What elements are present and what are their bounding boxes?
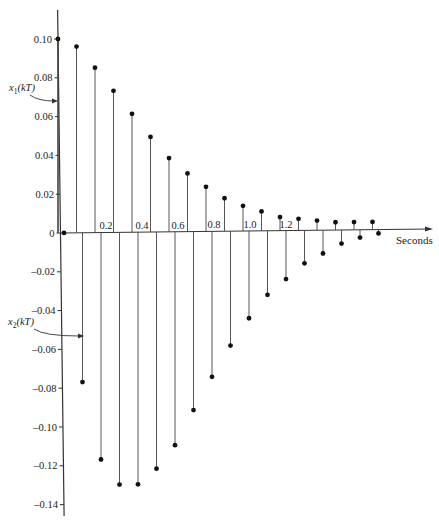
x1-point bbox=[56, 37, 61, 42]
x1-point bbox=[333, 220, 338, 225]
x-tick-label: 1.0 bbox=[243, 219, 256, 230]
x1-point bbox=[241, 203, 246, 208]
x2-point bbox=[321, 251, 326, 256]
stem-chart: 0.100.080.060.040.020–0.02–0.04–0.06–0.0… bbox=[0, 0, 439, 520]
x1-point bbox=[204, 184, 209, 189]
x1-point bbox=[130, 111, 135, 116]
x-tick-label: 0.8 bbox=[207, 219, 220, 230]
series-x2-stems bbox=[62, 230, 381, 487]
x1-label: x1(kT) bbox=[8, 82, 35, 96]
x2-point bbox=[228, 343, 233, 348]
x2-point bbox=[358, 235, 363, 240]
y-tick-label: –0.14 bbox=[33, 499, 58, 510]
x2-point bbox=[136, 482, 141, 487]
y-tick-label: –0.12 bbox=[33, 460, 58, 471]
x-tick-label: 1.2 bbox=[279, 219, 292, 230]
x1-point bbox=[148, 135, 153, 140]
x-tick-label: 0.2 bbox=[99, 220, 112, 231]
y-axis: 0.100.080.060.040.020–0.02–0.04–0.06–0.0… bbox=[30, 10, 64, 516]
x-axis-arrow-icon bbox=[425, 226, 433, 231]
x2-point bbox=[62, 231, 67, 236]
y-tick-label: 0.04 bbox=[35, 150, 54, 161]
x2-point bbox=[99, 457, 104, 462]
x1-point bbox=[315, 218, 320, 223]
x1-point bbox=[296, 216, 301, 221]
x1-point bbox=[259, 209, 264, 214]
x2-point bbox=[265, 292, 270, 297]
y-tick-label: –0.02 bbox=[30, 266, 55, 277]
x1-pointer-arrow bbox=[30, 95, 54, 101]
x2-point bbox=[191, 408, 196, 413]
x1-point bbox=[167, 156, 172, 161]
x-tick-label: 0.4 bbox=[135, 220, 149, 231]
chart-canvas: 0.100.080.060.040.020–0.02–0.04–0.06–0.0… bbox=[0, 0, 439, 520]
x2-arrowhead-icon bbox=[78, 334, 84, 339]
x1-point bbox=[74, 44, 79, 49]
y-tick-label: 0.10 bbox=[34, 34, 52, 45]
x1-point bbox=[222, 196, 227, 201]
y-tick-label: 0.06 bbox=[35, 111, 53, 122]
y-tick-label: 0 bbox=[49, 228, 54, 239]
y-tick-label: –0.08 bbox=[32, 383, 57, 394]
x2-point bbox=[339, 241, 344, 246]
x1-point bbox=[370, 219, 375, 224]
x2-point bbox=[302, 261, 307, 266]
x2-point bbox=[210, 374, 215, 379]
y-tick-label: 0.02 bbox=[36, 189, 54, 200]
x2-point bbox=[154, 466, 159, 471]
x1-point bbox=[93, 65, 98, 70]
x2-pointer-arrow bbox=[34, 329, 79, 336]
x2-point bbox=[247, 316, 252, 321]
y-tick-label: 0.08 bbox=[34, 72, 52, 83]
x-axis-label: Seconds bbox=[396, 234, 433, 246]
y-tick-label: –0.04 bbox=[31, 305, 56, 316]
y-tick-label: –0.06 bbox=[31, 344, 56, 355]
x2-point bbox=[284, 277, 289, 282]
x2-point bbox=[80, 380, 85, 385]
x1-point bbox=[111, 88, 116, 93]
x1-point bbox=[278, 215, 283, 220]
y-tick-label: –0.10 bbox=[32, 422, 57, 433]
x-tick-label: 0.6 bbox=[171, 220, 184, 231]
x2-point bbox=[117, 482, 122, 487]
x2-point bbox=[173, 443, 178, 448]
x1-point bbox=[352, 220, 357, 225]
x2-point bbox=[376, 231, 381, 236]
x2-label: x2(kT) bbox=[7, 316, 34, 330]
x1-point bbox=[185, 171, 190, 176]
series-x1-stems bbox=[56, 37, 375, 233]
x1-arrowhead-icon bbox=[52, 99, 58, 104]
